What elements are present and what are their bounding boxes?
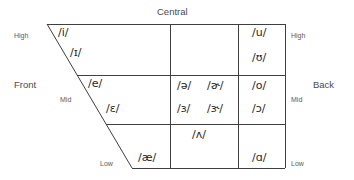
vowel-back-mid-open: /ɔ/	[252, 103, 265, 114]
vowel-back-low: /ɑ/	[252, 152, 266, 163]
height-label-mid-left: Mid	[60, 96, 71, 103]
vowel-central-low: /ʌ/	[192, 129, 206, 140]
vowel-front-low: /æ/	[138, 152, 156, 163]
vowel-back-high-lax: /ʊ/	[252, 52, 266, 63]
vowel-central-mid-schwar: /ɚ/	[207, 80, 223, 91]
height-label-low-right: Low	[291, 160, 304, 167]
vowel-back-mid-tense: /o/	[252, 80, 266, 91]
axis-label-front: Front	[14, 80, 36, 90]
axis-label-central: Central	[157, 7, 188, 17]
vowel-central-mid-schwa: /ə/	[177, 80, 191, 91]
height-label-low-left: Low	[100, 160, 113, 167]
height-label-high-left: High	[14, 32, 28, 39]
vowel-front-high-tense: /i/	[58, 27, 68, 38]
height-label-high-right: High	[291, 32, 305, 39]
height-label-mid-right: Mid	[291, 96, 302, 103]
vowel-front-high-lax: /ɪ/	[70, 47, 82, 58]
vowel-back-high-tense: /u/	[252, 27, 266, 38]
vowel-front-mid-tense: /e/	[88, 78, 102, 89]
vowel-central-mid-open-rhotic: /ɝ/	[207, 103, 223, 114]
axis-label-back: Back	[313, 80, 334, 90]
vowel-front-mid-lax: /ɛ/	[106, 103, 119, 114]
vowel-central-mid-open: /ɜ/	[177, 103, 190, 114]
vowel-chart: Front Back Central High Mid Low High Mid…	[0, 0, 354, 180]
